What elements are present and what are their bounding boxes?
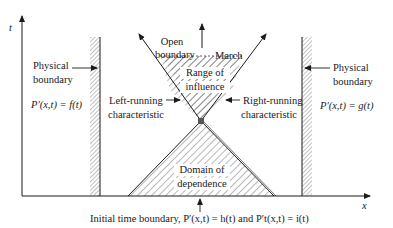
initial-boundary-label: Initial time boundary, P′(x,t) = h(t) an… xyxy=(90,213,309,225)
left-characteristic-label-2: characteristic xyxy=(108,109,164,121)
left-characteristic-label-1: Left-running xyxy=(109,95,163,107)
open-boundary-label-1: Open xyxy=(152,36,192,48)
left-boundary-title-1: Physical xyxy=(33,60,69,72)
range-of-influence-label-2: influence xyxy=(180,81,230,93)
right-boundary-title-2: boundary xyxy=(333,76,373,88)
right-characteristic-label-1: Right-running xyxy=(243,95,303,107)
range-of-influence-label-1: Range of xyxy=(180,67,230,79)
left-boundary-condition: P′(x,t) = f(t) xyxy=(31,99,82,111)
domain-of-dependence-label-2: dependence xyxy=(174,178,230,190)
left-boundary-title-2: boundary xyxy=(33,74,73,86)
x-axis-label: x xyxy=(362,200,367,212)
open-boundary-label-2: boundary xyxy=(155,49,195,61)
t-axis-label: t xyxy=(9,22,12,34)
right-boundary-condition: P′(x,t) = g(t) xyxy=(320,100,373,112)
march-label: March xyxy=(215,50,242,62)
left-boundary-strip xyxy=(90,37,100,196)
grid-point xyxy=(198,118,204,124)
right-characteristic-label-2: characteristic xyxy=(241,109,297,121)
domain-of-dependence-label-1: Domain of xyxy=(174,164,230,176)
right-boundary-title-1: Physical xyxy=(333,62,369,74)
right-boundary-strip xyxy=(302,37,312,196)
diagram-canvas xyxy=(0,0,393,228)
